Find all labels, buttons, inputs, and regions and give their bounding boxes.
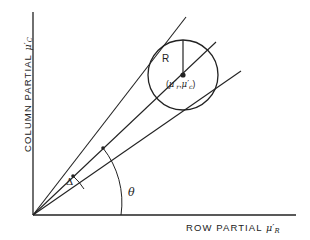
y-axis-symbol: μ′C — [22, 37, 33, 51]
x-axis-label-text: ROW PARTIAL — [186, 222, 266, 233]
center-ray — [33, 42, 216, 215]
center-mu-col: μ′c — [182, 79, 193, 89]
x-axis-symbol-subscript: R — [274, 227, 279, 235]
y-axis-label: COLUMN PARTIAL μ′C — [22, 19, 35, 169]
center-point-marker — [180, 72, 185, 77]
y-axis-symbol-prime: ′ — [22, 42, 33, 44]
lower-boundary-ray — [33, 71, 241, 215]
theta-angle-label: θ — [128, 186, 135, 199]
theta-ray-tick — [101, 146, 105, 150]
radius-label: R — [162, 53, 170, 64]
x-axis-label: ROW PARTIAL μ′R — [186, 222, 280, 235]
rays-group — [33, 17, 241, 215]
center-coordinate-label: (μ′r,μ′c) — [166, 79, 195, 90]
delta-angle-label: Δ — [66, 176, 73, 187]
figure-container: COLUMN PARTIAL μ′C ROW PARTIAL μ′R R (μ′… — [0, 0, 310, 240]
x-axis-symbol: μ′R — [266, 222, 280, 233]
delta-arc — [73, 176, 84, 189]
y-axis-symbol-base: μ — [22, 44, 33, 50]
center-mu-row: μ′r — [169, 79, 179, 89]
arc-tick-marks — [71, 146, 105, 178]
center-close-paren: ) — [193, 79, 196, 89]
diagram-canvas — [0, 0, 310, 240]
theta-arc — [103, 148, 122, 215]
y-axis-symbol-subscript: C — [26, 37, 34, 42]
y-axis-label-text: COLUMN PARTIAL — [22, 51, 33, 152]
